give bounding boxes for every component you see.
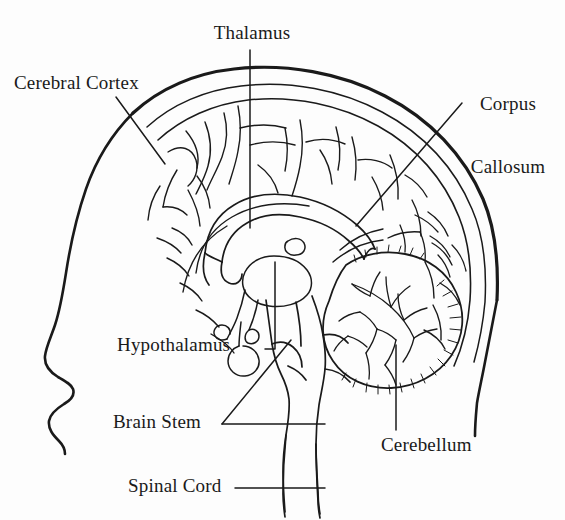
label-thalamus: Thalamus: [197, 22, 307, 43]
lateral-ventricle-arc: [183, 204, 309, 292]
occipital-gyri: [388, 215, 466, 277]
cerebellum: [323, 245, 462, 394]
label-cerebellum: Cerebellum: [381, 434, 472, 455]
label-hypothalamus: Hypothalamus: [117, 334, 230, 355]
cerebral-cortex-outline: [158, 99, 471, 366]
cerebral-cortex-gyri: [148, 106, 460, 353]
skull-outline: [133, 67, 497, 300]
brain-stem: [266, 296, 350, 514]
thalamus: [243, 239, 312, 307]
label-corpus-callosum-line1: Corpus: [455, 93, 561, 114]
label-cerebral-cortex: Cerebral Cortex: [14, 72, 139, 93]
label-corpus-callosum: Corpus Callosum: [455, 50, 561, 220]
label-spinal-cord: Spinal Cord: [128, 475, 222, 496]
inner-skull-line: [147, 84, 485, 362]
label-brain-stem: Brain Stem: [113, 411, 201, 432]
brain-diagram-page: Cerebral Cortex Thalamus Corpus Callosum…: [0, 0, 565, 520]
label-corpus-callosum-line2: Callosum: [455, 156, 561, 177]
spinal-cord: [283, 435, 320, 518]
head-profile-outline: [45, 113, 133, 454]
occiput-neck-outline: [475, 300, 497, 436]
